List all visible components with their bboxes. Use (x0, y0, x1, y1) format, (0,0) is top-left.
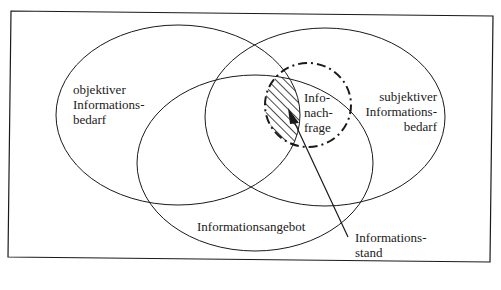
subjective-need-label: subjektiver Informations- bedarf (355, 89, 437, 134)
label-line: nach- (304, 105, 333, 120)
label-line: subjektiver (355, 89, 437, 104)
information-demand-label: Info- nach- frage (304, 90, 333, 135)
label-line: bedarf (355, 119, 437, 134)
information-supply-label: Informationsangebot (197, 219, 305, 234)
label-line: Info- (304, 90, 333, 105)
information-status-label: Informations- stand (355, 230, 426, 260)
objective-need-label: objektiver Informations- bedarf (73, 82, 144, 127)
label-line: frage (304, 120, 333, 135)
label-line: stand (355, 245, 426, 260)
label-line: bedarf (73, 112, 144, 127)
label-line: Informations- (355, 230, 426, 245)
label-line: objektiver (73, 82, 144, 97)
label-line: Informations- (355, 104, 437, 119)
label-line: Informations- (73, 97, 144, 112)
